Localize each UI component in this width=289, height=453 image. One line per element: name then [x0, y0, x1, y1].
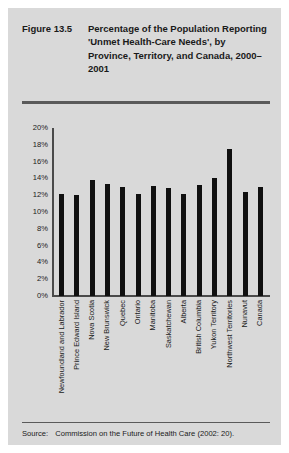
- x-axis-tick-label: New Brunswick: [103, 300, 111, 351]
- x-axis-tick-label: Prince Edward Island: [73, 300, 81, 370]
- x-axis-tick: Yukon Territory: [207, 300, 222, 408]
- bar-slot: [161, 128, 176, 296]
- bar: [90, 180, 95, 296]
- bar: [243, 192, 248, 296]
- x-axis-tick-label: Manitoba: [149, 300, 157, 330]
- bar-series: [54, 128, 268, 296]
- x-axis-tick: British Columbia: [192, 300, 207, 408]
- bar-slot: [237, 128, 252, 296]
- x-axis-tick-label: Nunavut: [241, 300, 249, 328]
- y-axis-tick-label: 8%: [37, 225, 48, 233]
- y-axis-tick-label: 0%: [37, 292, 48, 300]
- y-axis-tick-label: 6%: [37, 242, 48, 250]
- figure-number: Figure 13.5: [22, 22, 88, 35]
- x-axis-tick-label: Newfoundland and Labrador: [58, 300, 66, 393]
- bar: [105, 184, 110, 296]
- x-axis-tick: New Brunswick: [100, 300, 115, 408]
- bar-slot: [115, 128, 130, 296]
- x-axis-tick-label: Ontario: [134, 300, 142, 324]
- y-axis-tick-label: 20%: [33, 124, 48, 132]
- source-label: Source:: [22, 429, 48, 438]
- x-axis-tick: Quebec: [115, 300, 130, 408]
- bar-slot: [85, 128, 100, 296]
- bar: [181, 194, 186, 296]
- bar-slot: [100, 128, 115, 296]
- bar: [151, 186, 156, 296]
- x-axis-tick-label: Saskatchewan: [165, 300, 173, 348]
- y-axis-tick-label: 4%: [37, 258, 48, 266]
- x-axis-tick: Ontario: [130, 300, 145, 408]
- y-axis-tick-label: 14%: [33, 174, 48, 182]
- bar-slot: [69, 128, 84, 296]
- x-axis-tick: Nunavut: [237, 300, 252, 408]
- source-note: Source:Commission on the Future of Healt…: [22, 429, 270, 438]
- x-axis-tick-label: Canada: [256, 300, 264, 326]
- x-axis-tick: Alberta: [176, 300, 191, 408]
- bar-slot: [146, 128, 161, 296]
- y-axis: 20%18%16%14%12%10%8%6%4%2%0%: [22, 120, 50, 296]
- bar: [120, 187, 125, 296]
- x-axis-tick: Canada: [253, 300, 268, 408]
- x-axis-tick: Newfoundland and Labrador: [54, 300, 69, 408]
- x-axis-tick-label: Quebec: [119, 300, 127, 326]
- divider-bottom: [22, 422, 270, 423]
- x-axis-tick: Prince Edward Island: [69, 300, 84, 408]
- x-axis-tick-label: Yukon Territory: [210, 300, 218, 349]
- bar: [74, 195, 79, 296]
- bar-chart: 20%18%16%14%12%10%8%6%4%2%0% Newfoundlan…: [22, 120, 270, 410]
- bar: [197, 185, 202, 296]
- plot-area: 20%18%16%14%12%10%8%6%4%2%0%: [22, 120, 270, 302]
- x-axis-tick: Manitoba: [146, 300, 161, 408]
- bar: [59, 194, 64, 296]
- x-axis-tick-label: Northwest Territories: [226, 300, 234, 368]
- y-axis-tick-label: 18%: [33, 141, 48, 149]
- bar-slot: [130, 128, 145, 296]
- bar: [136, 194, 141, 296]
- x-axis: Newfoundland and LabradorPrince Edward I…: [54, 300, 268, 408]
- bar-slot: [192, 128, 207, 296]
- x-axis-tick-label: Alberta: [180, 300, 188, 323]
- figure-title-block: Figure 13.5 Percentage of the Population…: [22, 22, 270, 75]
- y-axis-tick-label: 16%: [33, 158, 48, 166]
- bar-slot: [54, 128, 69, 296]
- y-axis-tick-label: 2%: [37, 275, 48, 283]
- bar: [258, 187, 263, 296]
- divider-top: [22, 101, 270, 104]
- x-axis-tick: Saskatchewan: [161, 300, 176, 408]
- y-axis-tick-label: 12%: [33, 191, 48, 199]
- x-axis-tick: Nova Scotia: [85, 300, 100, 408]
- x-axis-tick: Northwest Territories: [222, 300, 237, 408]
- y-axis-tick-label: 10%: [33, 208, 48, 216]
- bar-slot: [253, 128, 268, 296]
- bar: [212, 178, 217, 296]
- x-axis-tick-label: British Columbia: [195, 300, 203, 354]
- bar: [227, 149, 232, 296]
- bar-slot: [222, 128, 237, 296]
- page-title: Percentage of the Population Reporting '…: [88, 22, 270, 75]
- bar-slot: [207, 128, 222, 296]
- bar-slot: [176, 128, 191, 296]
- bar: [166, 188, 171, 296]
- figure-panel: Figure 13.5 Percentage of the Population…: [8, 8, 281, 445]
- source-text: Commission on the Future of Health Care …: [55, 429, 234, 438]
- x-axis-tick-label: Nova Scotia: [88, 300, 96, 340]
